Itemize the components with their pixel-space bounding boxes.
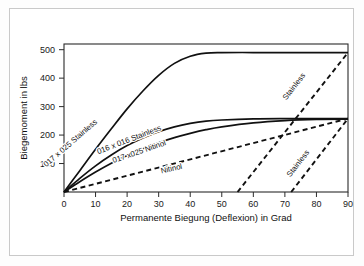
- curve-label: 017 x 025 Stainless017 x 025 Stainless: [42, 117, 99, 169]
- curve-label-text: 017 x 025 Stainless: [42, 117, 99, 169]
- x-tick-label: 50: [217, 199, 227, 209]
- curve-label: NitinolNitinol: [160, 162, 183, 176]
- y-tick-label: 500: [40, 45, 55, 55]
- data-series-group: [64, 52, 348, 192]
- y-tick-label: 300: [40, 102, 55, 112]
- x-tick-label: 0: [61, 199, 66, 209]
- y-tick-label: 400: [40, 73, 55, 83]
- y-tick-label: 200: [40, 130, 55, 140]
- chart-canvas: 100200300400500 0102030405060708090 017 …: [0, 0, 364, 266]
- x-tick-label: 30: [154, 199, 164, 209]
- curve-label-text: Stainless: [281, 71, 308, 102]
- figure-container: 100200300400500 0102030405060708090 017 …: [0, 0, 364, 266]
- x-tick-label: 40: [185, 199, 195, 209]
- curve-label-text: Nitinol: [160, 162, 183, 176]
- x-tick-label: 10: [91, 199, 101, 209]
- curve-label: StainlessStainless: [285, 148, 312, 179]
- x-tick-label: 80: [311, 199, 321, 209]
- x-tick-label: 20: [122, 199, 132, 209]
- curve-label-text: Stainless: [285, 148, 312, 179]
- curve-annotations: 017 x 025 Stainless017 x 025 Stainless01…: [42, 71, 312, 179]
- x-tick-label: 60: [248, 199, 258, 209]
- curve-label: StainlessStainless: [281, 71, 308, 102]
- data-curve: [64, 52, 348, 192]
- x-tick-label: 70: [280, 199, 290, 209]
- x-axis-ticks: 0102030405060708090: [61, 192, 353, 209]
- x-tick-label: 90: [343, 199, 353, 209]
- y-axis-title: Biegemoment in lbs: [18, 76, 29, 160]
- x-axis-title: Permanente Biegung (Deflexion) in Grad: [120, 212, 292, 223]
